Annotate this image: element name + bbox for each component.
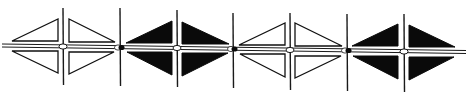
triangle-upper-right xyxy=(69,19,115,42)
separator-node-dark xyxy=(232,46,238,51)
triangle-upper-right xyxy=(182,22,229,44)
separator-3 xyxy=(342,14,352,91)
triangle-upper-left xyxy=(352,24,398,46)
triangle-lower-left xyxy=(353,56,398,79)
separator-2 xyxy=(228,13,238,88)
separator-1 xyxy=(115,8,125,86)
unit-1-outline xyxy=(12,8,115,85)
triangle-lower-left xyxy=(12,51,58,73)
triangle-lower-left xyxy=(127,52,172,75)
triangle-lower-right xyxy=(295,56,341,78)
center-node xyxy=(286,47,294,52)
separator-node-dark xyxy=(346,48,352,53)
triangle-upper-right xyxy=(295,23,342,46)
center-node xyxy=(400,49,408,54)
triangle-band-diagram xyxy=(0,0,470,97)
triangle-upper-left xyxy=(12,19,58,41)
triangle-lower-right xyxy=(409,57,454,80)
triangle-upper-left xyxy=(126,21,172,43)
center-node xyxy=(59,44,67,49)
triangle-lower-left xyxy=(240,54,285,77)
triangle-upper-right xyxy=(409,25,455,47)
center-node xyxy=(173,45,181,50)
triangle-upper-left xyxy=(239,23,285,45)
triangle-lower-right xyxy=(69,52,114,74)
separator-node-dark xyxy=(119,45,125,50)
triangle-lower-right xyxy=(182,53,228,76)
